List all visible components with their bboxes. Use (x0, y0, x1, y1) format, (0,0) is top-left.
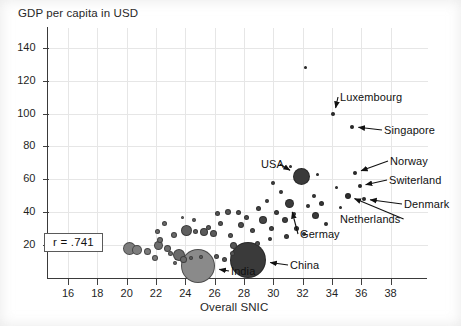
bubble-point (265, 199, 269, 203)
x-tick-mark (303, 279, 304, 285)
x-axis-title: Overall SNIC (200, 301, 268, 313)
gridline-vertical (244, 28, 245, 278)
x-tick-label: 34 (320, 287, 344, 299)
bubble-luxembourg (331, 112, 335, 116)
callout-label-germay: Germay (300, 228, 340, 240)
x-tick-mark (215, 279, 216, 285)
x-tick-mark (97, 279, 98, 285)
gridline-vertical (361, 28, 362, 278)
bubble-point (193, 229, 198, 234)
bubble-point (222, 257, 227, 262)
bubble-point (218, 221, 223, 226)
gridline-horizontal (48, 81, 429, 82)
bubble-point (316, 173, 319, 176)
bubble-point (214, 254, 219, 259)
callout-label-china: China (290, 259, 319, 271)
bubble-point (236, 210, 241, 215)
y-tick-label: 20 (8, 238, 36, 250)
bubble-point (230, 251, 235, 256)
x-tick-mark (68, 279, 69, 285)
gridline-horizontal (48, 179, 429, 180)
bubble-point (271, 181, 275, 185)
x-tick-mark (361, 279, 362, 285)
bubble-switerland (358, 184, 362, 188)
callout-label-singapore: Singapore (384, 124, 435, 136)
bubble-point (152, 255, 158, 261)
gridline-vertical (127, 28, 128, 278)
y-tick-label: 80 (8, 139, 36, 151)
callout-label-denmark: Denmark (404, 198, 449, 210)
bubble-point (206, 225, 211, 230)
bubble-point (244, 215, 249, 220)
bubble-point (155, 229, 160, 234)
bubble-denmark (362, 197, 366, 201)
bubble-point (284, 234, 289, 239)
x-tick-label: 30 (261, 287, 285, 299)
x-tick-label: 16 (56, 287, 80, 299)
x-tick-mark (332, 279, 333, 285)
bubble-point (312, 212, 319, 219)
x-tick-label: 20 (115, 287, 139, 299)
bubble-point (312, 194, 316, 198)
bubble-point (171, 232, 177, 238)
bubble-point (255, 241, 260, 246)
callout-label-luxembourg: Luxembourg (340, 91, 402, 103)
bubble-point (181, 225, 192, 236)
bubble-point (294, 226, 299, 231)
bubble-point (319, 201, 324, 206)
bubble-point (304, 66, 307, 69)
bubble-usa (293, 168, 310, 185)
bubble-point (250, 228, 255, 233)
x-tick-mark (185, 279, 186, 285)
bubble-point (181, 216, 184, 219)
x-tick-mark (127, 279, 128, 285)
bubble-point (173, 261, 177, 265)
gridline-vertical (391, 28, 392, 278)
bubble-point (192, 218, 196, 222)
bubble-point (324, 222, 328, 226)
y-tick-label: 60 (8, 172, 36, 184)
bubble-point (162, 221, 167, 226)
bubble-netherlands (345, 193, 351, 199)
gridline-horizontal (48, 146, 429, 147)
correlation-stat-box: r = .741 (44, 233, 103, 252)
y-tick-label: 40 (8, 205, 36, 217)
bubble-point (256, 206, 261, 211)
x-tick-label: 24 (173, 287, 197, 299)
x-tick-label: 36 (349, 287, 373, 299)
bubble-point (292, 212, 296, 216)
bubble-point (279, 190, 283, 194)
gridline-vertical (215, 28, 216, 278)
bubble-point (144, 248, 151, 255)
x-tick-label: 26 (203, 287, 227, 299)
gridline-vertical (185, 28, 186, 278)
bubble-point (274, 210, 279, 215)
y-axis-title: GDP per capita in USD (18, 7, 138, 19)
callout-label-norway: Norway (390, 155, 428, 167)
bubble-point (259, 216, 267, 224)
x-tick-mark (244, 279, 245, 285)
gridline-vertical (332, 28, 333, 278)
x-tick-mark (391, 279, 392, 285)
bubble-point (228, 233, 233, 238)
x-tick-mark (156, 279, 157, 285)
y-tick-label: 100 (8, 107, 36, 119)
x-tick-label: 38 (379, 287, 403, 299)
bubble-point (132, 245, 142, 255)
bubble-point (168, 251, 173, 256)
bubble-germay (285, 199, 294, 208)
callout-label-india: India (231, 265, 255, 277)
bubble-point (289, 165, 292, 168)
bubble-point (215, 211, 220, 216)
x-axis-line (47, 278, 428, 279)
callout-label-netherlands: Netherlands (340, 213, 400, 225)
callout-label-switerland: Switerland (389, 174, 441, 186)
y-tick-label: 120 (8, 74, 36, 86)
gridline-vertical (273, 28, 274, 278)
bubble-point (339, 206, 342, 209)
bubble-chart: GDP per capita in USD Overall SNIC 20406… (0, 0, 461, 326)
x-tick-label: 32 (291, 287, 315, 299)
x-tick-label: 22 (144, 287, 168, 299)
bubble-point (210, 230, 217, 237)
bubble-point (230, 242, 237, 249)
